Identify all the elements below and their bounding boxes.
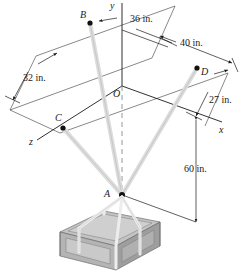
dimension-label-60: 60 in. <box>184 163 207 174</box>
dim-36-line <box>136 29 172 43</box>
point-label-C: C <box>55 112 62 123</box>
dim-32-arrow-upper <box>38 53 57 64</box>
cable-AB-edge <box>90 23 122 195</box>
point-label-B: B <box>80 9 86 20</box>
node-C <box>60 125 65 130</box>
dimension-label-40: 40 in. <box>180 37 203 48</box>
dimension-label-32: 32 in. <box>23 72 46 83</box>
figure-canvas: B C D A O y x z 36 in. 40 in. 32 in. 27 … <box>0 0 249 273</box>
crate <box>60 211 160 270</box>
point-label-D: D <box>201 66 208 77</box>
cable-AD-edge <box>122 68 197 195</box>
grid-line-top <box>36 6 175 56</box>
axis-label-y: y <box>110 0 114 11</box>
x-axis <box>122 86 222 122</box>
dim-36-arrow-left <box>99 18 117 21</box>
dimension-label-36: 36 in. <box>130 13 153 24</box>
grid-line-right <box>152 6 175 58</box>
point-label-A: A <box>104 188 110 199</box>
dim-32-tick <box>5 96 20 103</box>
node-group <box>60 20 199 198</box>
diagram-svg <box>0 0 249 273</box>
cable-group <box>63 23 197 195</box>
dim-27-tick <box>186 112 202 120</box>
axis-label-x: x <box>219 124 223 135</box>
node-D <box>194 65 199 70</box>
dimension-label-27: 27 in. <box>209 94 232 105</box>
dim-40-tick-right <box>232 58 238 72</box>
dim-27-arrow-lower <box>196 92 208 116</box>
axis-label-z: z <box>29 136 33 147</box>
origin-label-O: O <box>113 88 120 99</box>
node-B <box>87 20 92 25</box>
grid-line-left-outer <box>10 110 60 133</box>
